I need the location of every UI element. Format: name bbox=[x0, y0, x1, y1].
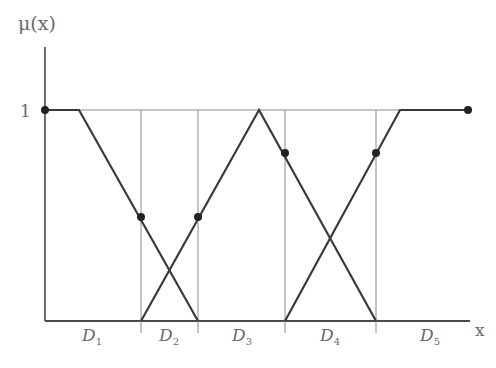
marked-point bbox=[372, 149, 380, 157]
y-tick-label: 1 bbox=[20, 101, 31, 121]
marked-point bbox=[281, 149, 289, 157]
marked-point bbox=[41, 106, 49, 114]
marked-point bbox=[464, 106, 472, 114]
membership-function-2 bbox=[141, 110, 376, 321]
interval-label-d4: D4 bbox=[319, 325, 340, 347]
membership-function-1 bbox=[45, 110, 198, 321]
interval-label-d1: D1 bbox=[81, 325, 102, 347]
marked-point bbox=[137, 213, 145, 221]
marked-point bbox=[194, 213, 202, 221]
interval-label-d5: D5 bbox=[419, 325, 440, 347]
x-axis-label: x bbox=[475, 320, 485, 340]
interval-label-d2: D2 bbox=[158, 325, 179, 347]
y-axis-label: μ(x) bbox=[18, 12, 56, 34]
membership-diagram: μ(x) 1 x D1 D2 D3 D4 D5 bbox=[0, 0, 496, 368]
interval-label-d3: D3 bbox=[231, 325, 252, 347]
